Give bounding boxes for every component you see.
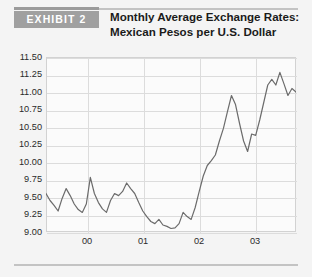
exhibit-figure: EXHIBIT 2 Monthly Average Exchange Rates… — [0, 0, 312, 277]
series-line-pesos-per-dollar — [46, 57, 296, 232]
y-axis-tick-label: 9.25 — [2, 210, 42, 219]
x-axis: 00010203 — [46, 236, 296, 250]
y-axis-tick-label: 9.00 — [2, 228, 42, 237]
y-axis-tick-label: 9.75 — [2, 175, 42, 184]
gridline-horizontal — [47, 233, 297, 234]
line-chart: 11.5011.2511.0010.7510.5010.2510.009.759… — [0, 0, 312, 277]
y-axis-tick-label: 11.25 — [2, 70, 42, 79]
x-axis-tick-label: 01 — [131, 236, 155, 246]
bottom-rule — [14, 264, 298, 266]
y-axis-tick-label: 10.25 — [2, 140, 42, 149]
x-axis-tick-label: 00 — [75, 236, 99, 246]
y-axis-tick-label: 10.50 — [2, 123, 42, 132]
y-axis-tick-label: 9.50 — [2, 193, 42, 202]
y-axis: 11.5011.2511.0010.7510.5010.2510.009.759… — [0, 57, 42, 232]
y-axis-tick-label: 10.00 — [2, 158, 42, 167]
y-axis-tick-label: 11.50 — [2, 53, 42, 62]
y-axis-tick-label: 10.75 — [2, 105, 42, 114]
x-axis-tick-label: 02 — [187, 236, 211, 246]
y-axis-tick-label: 11.00 — [2, 88, 42, 97]
x-axis-tick-label: 03 — [243, 236, 267, 246]
